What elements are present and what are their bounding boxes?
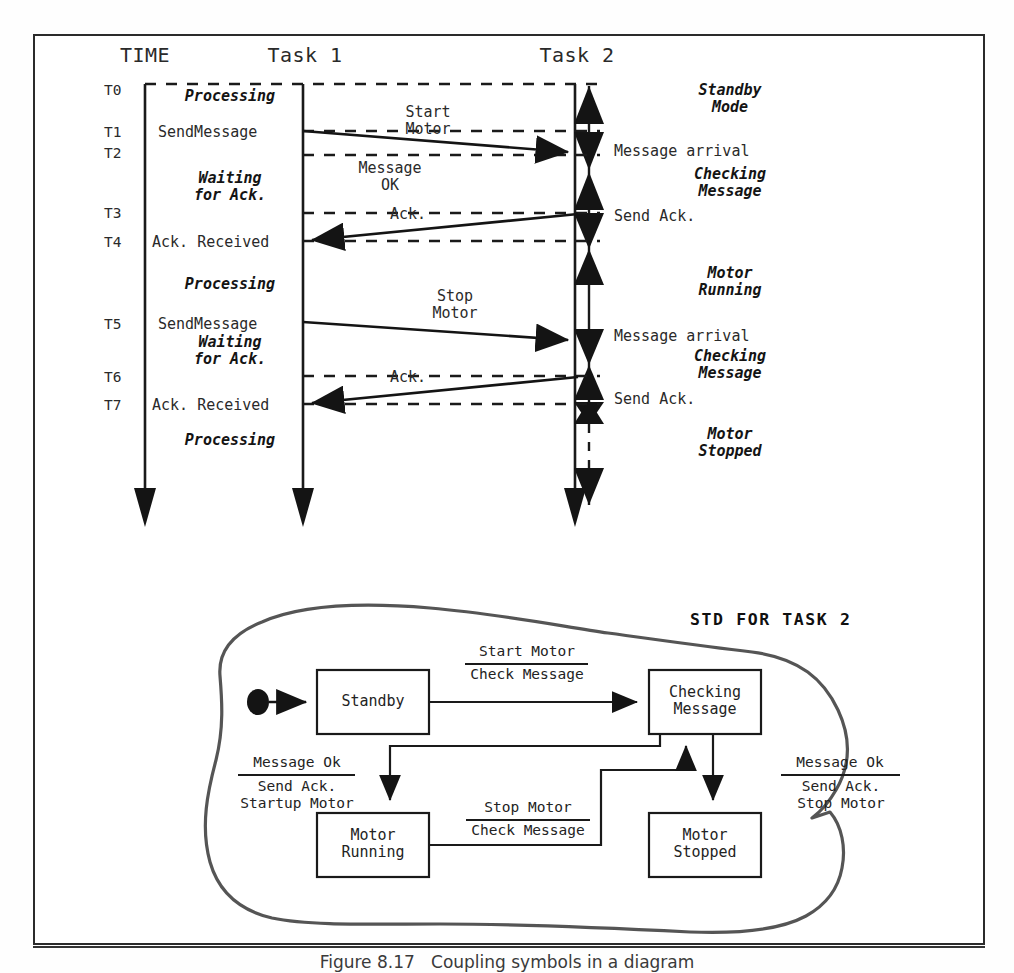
figure-caption: Figure 8.17 Coupling symbols in a diagra… bbox=[0, 952, 1014, 973]
task1-event-sendmessage-1: SendMessage bbox=[158, 124, 257, 141]
std-transition-action-stop-motor: Send Ack. Stop Motor bbox=[768, 778, 914, 813]
task1-event-ackreceived-1: Ack. Received bbox=[152, 234, 269, 251]
std-state-label-standby: Standby bbox=[317, 693, 429, 710]
time-mark-T2: T2 bbox=[104, 145, 121, 161]
std-transition-event-message-ok-2: Message Ok bbox=[777, 754, 903, 771]
task2-event-message-arrival-2: Message arrival bbox=[614, 328, 749, 345]
std-state-label-running: Motor Running bbox=[317, 827, 429, 862]
time-mark-T6: T6 bbox=[104, 369, 121, 385]
std-transition-event-start-motor: Start Motor bbox=[460, 643, 594, 660]
figure-page: TIME Task 1 Task 2 T0 T1 T2 T3 T4 T5 T6 … bbox=[0, 0, 1014, 973]
task2-activation-bar bbox=[574, 86, 604, 505]
task1-event-ackreceived-2: Ack. Received bbox=[152, 397, 269, 414]
std-transition-event-stop-motor: Stop Motor bbox=[462, 799, 594, 816]
task2-event-send-ack-1: Send Ack. bbox=[614, 208, 695, 225]
task2-event-checking-2: Checking Message bbox=[660, 348, 800, 382]
column-header-task1: Task 1 bbox=[240, 44, 370, 66]
time-mark-T5: T5 bbox=[104, 316, 121, 332]
task1-lifeline bbox=[292, 84, 314, 527]
message-label-stop-motor: Stop Motor bbox=[400, 288, 510, 322]
std-state-label-stopped: Motor Stopped bbox=[649, 827, 761, 862]
time-mark-T1: T1 bbox=[104, 124, 121, 140]
task1-event-processing-3: Processing bbox=[156, 432, 304, 449]
task2-event-motor-running: Motor Running bbox=[660, 265, 800, 299]
std-edge-checking-running bbox=[390, 734, 660, 800]
column-header-task2: Task 2 bbox=[512, 44, 642, 66]
time-lifeline bbox=[134, 84, 156, 527]
std-transition-action-startup-motor: Send Ack. Startup Motor bbox=[220, 778, 374, 813]
message-label-start-motor: Start Motor bbox=[368, 104, 488, 138]
message-label-ack-1: Ack. bbox=[368, 206, 448, 223]
task2-event-motor-stopped: Motor Stopped bbox=[660, 426, 800, 460]
std-state-label-checking: Checking Message bbox=[649, 684, 761, 719]
task2-event-message-arrival-1: Message arrival bbox=[614, 143, 749, 160]
std-transition-event-message-ok-1: Message Ok bbox=[234, 754, 360, 771]
task2-event-send-ack-2: Send Ack. bbox=[614, 391, 695, 408]
std-transition-action-check-message-1: Check Message bbox=[450, 666, 604, 683]
message-label-ack-2: Ack. bbox=[368, 369, 448, 386]
task1-event-waiting-2: Waiting for Ack. bbox=[156, 334, 304, 368]
task1-event-waiting-1: Waiting for Ack. bbox=[156, 170, 304, 204]
time-mark-T3: T3 bbox=[104, 205, 121, 221]
task1-event-processing-2: Processing bbox=[156, 276, 304, 293]
std-initial-node bbox=[247, 689, 306, 715]
message-label-message-ok: Message OK bbox=[330, 160, 450, 194]
time-mark-T0: T0 bbox=[104, 82, 121, 98]
task2-event-checking-1: Checking Message bbox=[660, 166, 800, 200]
arrow-stop-motor bbox=[303, 322, 568, 340]
task1-event-sendmessage-2: SendMessage bbox=[158, 316, 257, 333]
task1-event-processing-1: Processing bbox=[156, 88, 304, 105]
std-title: STD FOR TASK 2 bbox=[690, 611, 851, 629]
time-mark-T7: T7 bbox=[104, 397, 121, 413]
std-transition-action-check-message-2: Check Message bbox=[450, 822, 606, 839]
task2-event-standby: Standby Mode bbox=[660, 82, 800, 116]
column-header-time: TIME bbox=[90, 44, 200, 66]
time-mark-T4: T4 bbox=[104, 234, 121, 250]
